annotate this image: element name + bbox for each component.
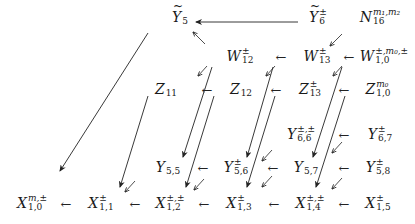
short-diagonal-arrow: [194, 179, 204, 190]
short-diagonal-arrow: [125, 181, 135, 192]
left-arrow-icon: ←: [344, 50, 355, 65]
node-subscript: 6,7: [378, 134, 392, 143]
long-arrow: [60, 33, 148, 171]
node-symbol: Y: [368, 126, 377, 142]
node-X13: X±1,3: [226, 195, 251, 213]
node-subscript: 1,4: [307, 203, 325, 212]
left-arrow-icon: ←: [130, 197, 141, 212]
node-symbol: Y: [156, 159, 165, 175]
node-subscript: 5,8: [376, 167, 390, 176]
left-arrow-icon: ←: [202, 83, 213, 98]
node-Z10: Zm₀1,0: [365, 81, 390, 99]
long-arrow: [183, 67, 212, 157]
node-symbol: X: [226, 195, 236, 211]
node-subscript: 5,6: [234, 167, 248, 176]
commutative-diagram: Y~.5Y~±6Nm₁,m₂16W±12W±13W±,m₀,±1,0Z.11Z.…: [0, 0, 415, 224]
node-subscript: 6,6: [297, 134, 315, 143]
node-X11: X±1,1: [88, 195, 113, 213]
node-X12: X±,±1,2: [156, 195, 185, 213]
left-arrow-icon: ←: [339, 83, 350, 98]
short-diagonal-arrow: [193, 32, 205, 44]
short-diagonal-arrow: [332, 142, 342, 153]
node-Z12: Z.12: [230, 81, 252, 99]
node-Y55: Y.5,5: [156, 159, 181, 177]
node-symbol: X: [296, 195, 306, 211]
node-subscript: 1,0: [375, 56, 408, 65]
node-Y58: Y±5,8: [366, 159, 391, 177]
left-arrow-icon: ←: [339, 161, 350, 176]
node-W12: W±12: [227, 48, 254, 66]
node-symbol: X: [17, 195, 27, 211]
left-arrow-icon: ←: [199, 197, 210, 212]
node-subscript: 1,5: [376, 203, 390, 212]
node-subscript: 11: [166, 89, 177, 98]
node-subscript: 12: [241, 89, 252, 98]
short-diagonal-arrow: [262, 176, 272, 187]
node-symbol: Y: [224, 159, 233, 175]
node-Y66: Y±,±6,6: [287, 126, 315, 144]
node-subscript: 6: [319, 17, 327, 26]
node-X14: X±,±1,4: [296, 195, 325, 213]
node-subscript: 12: [242, 56, 253, 65]
node-symbol: W: [227, 48, 241, 64]
node-symbol: W: [304, 48, 318, 64]
left-arrow-icon: ←: [268, 161, 279, 176]
node-Y67: Y±6,7: [368, 126, 393, 144]
node-subscript: 16: [373, 17, 400, 26]
short-diagonal-arrow: [198, 66, 207, 76]
node-symbol: Z: [299, 81, 309, 97]
node-symbol: Y~: [309, 9, 318, 25]
node-subscript: 1,0: [28, 203, 47, 212]
node-Z13: Z±13: [299, 81, 321, 99]
short-diagonal-arrow: [332, 178, 342, 189]
node-W10: W±,m₀,±1,0: [360, 48, 408, 66]
node-Y5t: Y~.5: [172, 9, 188, 27]
node-symbol: Y: [294, 159, 303, 175]
node-subscript: 1,1: [99, 203, 113, 212]
node-W13: W±13: [304, 48, 331, 66]
node-subscript: 1,2: [167, 203, 185, 212]
short-diagonal-arrow: [330, 34, 342, 46]
left-arrow-icon: ←: [276, 50, 287, 65]
left-arrow-icon: ←: [269, 197, 280, 212]
node-symbol: Y: [287, 126, 296, 142]
node-Y56: Y±5,6: [224, 159, 249, 177]
node-symbol: X: [365, 195, 375, 211]
node-subscript: 13: [319, 56, 330, 65]
node-symbol: Z: [365, 81, 375, 97]
arrow-layer: [0, 0, 415, 224]
node-X15: X±1,5: [365, 195, 390, 213]
node-symbol: Y: [366, 159, 375, 175]
node-symbol: Z: [155, 81, 165, 97]
node-symbol: Y~: [172, 9, 181, 25]
node-subscript: 5,7: [304, 167, 318, 176]
left-arrow-icon: ←: [198, 161, 209, 176]
node-symbol: Z: [230, 81, 240, 97]
node-symbol: X: [156, 195, 166, 211]
node-symbol: N: [360, 9, 372, 25]
node-subscript: 5,5: [166, 167, 180, 176]
node-Y57: Y.5,7: [294, 159, 319, 177]
left-arrow-icon: ←: [271, 83, 282, 98]
node-subscript: 1,0: [376, 89, 390, 98]
node-Z11: Z.11: [155, 81, 177, 99]
node-Y6t: Y~±6: [309, 9, 327, 27]
node-symbol: W: [360, 48, 374, 64]
node-subscript: 1,3: [237, 203, 251, 212]
node-symbol: X: [88, 195, 98, 211]
long-arrow: [120, 96, 148, 187]
node-subscript: 5: [182, 17, 188, 26]
left-arrow-icon: ←: [61, 197, 72, 212]
node-X10: Xm,±1,0: [17, 195, 47, 213]
short-diagonal-arrow: [262, 150, 272, 161]
left-arrow-icon: ←: [339, 197, 350, 212]
node-subscript: 13: [310, 89, 321, 98]
node-N16: Nm₁,m₂16: [360, 9, 400, 27]
left-arrow-icon: ←: [339, 128, 350, 143]
